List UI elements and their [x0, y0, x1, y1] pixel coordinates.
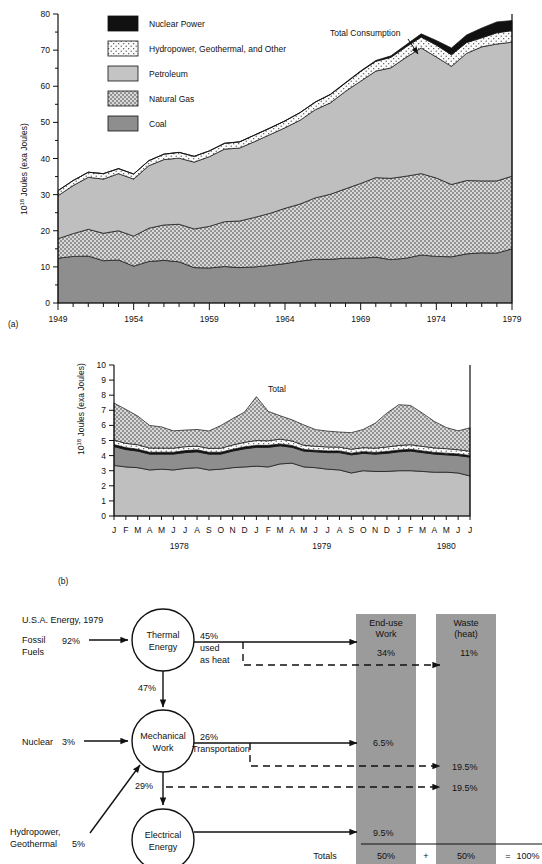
panel-b-month-label: M [158, 525, 165, 535]
panel-b-annotation: Total [268, 384, 286, 394]
flow-thermal-to-mech-label: 47% [138, 683, 156, 693]
enduse-header-line2: Work [376, 629, 397, 639]
node-electrical-line2: Energy [149, 842, 178, 852]
flow-thermal-out-sub1: used [200, 643, 220, 653]
legend-swatch-hydro [108, 41, 138, 56]
input-hydro-value: 5% [72, 839, 85, 849]
legend-label-gas: Natural Gas [149, 94, 194, 104]
panel-b-month-label: F [123, 525, 128, 535]
input-nuclear-label: Nuclear [22, 737, 53, 747]
node-mechanical-line1: Mechanical [140, 731, 186, 741]
panel-b-month-label: M [443, 525, 450, 535]
panel-b-month-label: M [300, 525, 307, 535]
panel-a-ytick-label: 70 [41, 45, 51, 55]
node-electrical-line1: Electrical [145, 830, 182, 840]
panel-b-month-label: S [348, 525, 354, 535]
panel-a-xtick-label: 1949 [49, 314, 68, 324]
totals-equals-sign: = [505, 851, 510, 861]
input-fossil-line2: Fuels [22, 647, 45, 657]
total-label: Total [268, 384, 286, 394]
legend-label-nuclear: Nuclear Power [149, 19, 205, 29]
panel-b-month-label: A [289, 525, 295, 535]
panel-b-ytick-label: 1 [101, 496, 106, 506]
panel-b-ytick-label: 5 [101, 436, 106, 446]
panel-b-month-label: J [456, 525, 460, 535]
panel-b-month-label: A [194, 525, 200, 535]
input-hydro-line2: Geothermal [10, 839, 57, 849]
legend-label-hydro: Hydropower, Geothermal, and Other [149, 44, 286, 54]
panel-b-month-label: N [372, 525, 378, 535]
node-thermal-energy [132, 609, 194, 671]
panel-b-ytick-label: 10 [97, 360, 107, 370]
panel-a-xtick-label: 1974 [427, 314, 446, 324]
panel-b-month-label: M [134, 525, 141, 535]
diagram-caption: U.S.A. Energy, 1979 [22, 615, 103, 625]
flow-mech-to-elec-label: 29% [135, 781, 153, 791]
panel-a-ytick-label: 50 [41, 117, 51, 127]
panel-b-month-label: A [147, 525, 153, 535]
panel-b-month-label: O [217, 525, 224, 535]
result-waste-thermal: 11% [460, 648, 477, 658]
panel-a-ytick-label: 0 [45, 298, 50, 308]
panel-a-label: (a) [8, 319, 19, 329]
node-thermal-line2: Energy [149, 642, 178, 652]
panel-a-ytick-label: 80 [41, 9, 51, 19]
totals-waste-value: 50% [457, 851, 475, 861]
panel-a-xtick-label: 1964 [276, 314, 295, 324]
totals-total-value: 100% [516, 851, 539, 861]
panel-b-month-label: J [314, 525, 318, 535]
panel-b-month-label: M [419, 525, 426, 535]
node-thermal-line1: Thermal [146, 630, 179, 640]
panel-b-month-label: J [325, 525, 329, 535]
panel-b-month-label: J [397, 525, 401, 535]
panel-a-xtick-label: 1954 [124, 314, 143, 324]
panel-a-ytick-label: 10 [41, 262, 51, 272]
enduse-header-line1: End-use [369, 618, 403, 628]
panel-b-ytick-label: 6 [101, 420, 106, 430]
result-enduse-elec: 9.5% [373, 828, 394, 838]
panel-b-month-label: D [241, 525, 247, 535]
panel-b-month-label: D [384, 525, 390, 535]
panel-b-year-label: 1980 [437, 541, 456, 551]
waste-header-line1: Waste [453, 618, 478, 628]
panel-b-ytick-label: 8 [101, 390, 106, 400]
panel-b-month-label: M [277, 525, 284, 535]
panel-b-month-label: N [230, 525, 236, 535]
flow-mech-out-sub1: Transportation [192, 744, 250, 754]
panel-b-ytick-label: 0 [101, 511, 106, 521]
flow-mech-out-label: 26% [200, 732, 218, 742]
node-mechanical-line2: Work [153, 743, 174, 753]
result-waste-mech: 19.5% [452, 762, 478, 772]
legend-label-coal: Coal [149, 119, 167, 129]
panel-b-ytick-label: 2 [101, 481, 106, 491]
panel-b-year-label: 1979 [312, 541, 331, 551]
panel-b-label: (b) [58, 576, 69, 586]
result-waste-elec: 19.5% [452, 783, 478, 793]
input-hydro-line1: Hydropower, [10, 827, 61, 837]
result-enduse-mech: 6.5% [373, 738, 394, 748]
panel-b-month-label: J [112, 525, 116, 535]
panel-b-ytick-label: 4 [101, 451, 106, 461]
totals-enduse-value: 50% [377, 851, 395, 861]
panel-a-xtick-label: 1979 [503, 314, 522, 324]
waste-header-line2: (heat) [454, 629, 478, 639]
node-mechanical-work [132, 710, 194, 772]
panel-a-ytick-label: 60 [41, 81, 51, 91]
result-enduse-thermal: 34% [377, 648, 395, 658]
panel-b-ytick-label: 7 [101, 405, 106, 415]
panel-b-month-label: A [432, 525, 438, 535]
energy-figure: 0102030405060708019491954195919641969197… [0, 0, 542, 864]
panel-a-ytick-label: 20 [41, 226, 51, 236]
panel-b-year-label: 1978 [170, 541, 189, 551]
panel-b-month-label: O [360, 525, 367, 535]
panel-b-ytick-label: 9 [101, 375, 106, 385]
legend-swatch-nuclear [108, 16, 138, 31]
panel-b-month-label: A [337, 525, 343, 535]
totals-plus-sign: + [423, 851, 428, 861]
total-consumption-label: Total Consumption [330, 28, 401, 38]
panel-b-month-label: F [266, 525, 271, 535]
panel-a-ytick-label: 40 [41, 154, 51, 164]
panel-b-month-label: S [206, 525, 212, 535]
panel-a-xtick-label: 1969 [351, 314, 370, 324]
flow-thermal-out-sub2: as heat [200, 655, 230, 665]
